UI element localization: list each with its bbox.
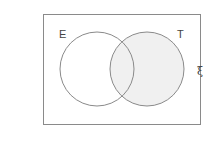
universal-set-symbol: ξ	[197, 65, 203, 78]
venn-diagram: E T ξ	[0, 0, 212, 141]
set-t-label: T	[177, 28, 184, 40]
set-e-label: E	[59, 28, 66, 40]
